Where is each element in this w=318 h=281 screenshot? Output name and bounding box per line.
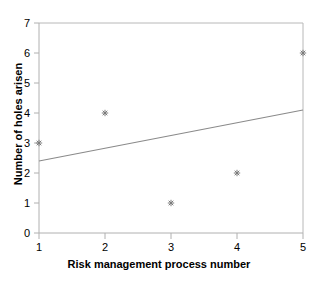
data-point[interactable]	[102, 110, 108, 116]
scatter-plot-canvas	[0, 0, 318, 281]
x-tick-label-2: 2	[98, 242, 112, 253]
data-point[interactable]	[234, 170, 240, 176]
data-point[interactable]	[168, 200, 174, 206]
x-tick-label-3: 3	[164, 242, 178, 253]
data-point[interactable]	[300, 50, 306, 56]
y-tick-label-0: 0	[16, 228, 30, 239]
x-tick-label-5: 5	[296, 242, 310, 253]
x-tick-label-1: 1	[32, 242, 46, 253]
data-point-group	[36, 50, 306, 206]
data-point[interactable]	[36, 140, 42, 146]
y-axis-title: Number of holes arisen	[12, 44, 24, 204]
x-axis-title: Risk management process number	[0, 258, 318, 270]
trend-line	[39, 110, 303, 161]
chart-figure: 0 1 2 3 4 5 6 7 1 2 3 4 5 Risk managemen…	[0, 0, 318, 281]
x-tick-label-4: 4	[230, 242, 244, 253]
x-axis-ticks	[39, 233, 303, 239]
y-axis-ticks	[34, 23, 39, 233]
y-tick-label-7: 7	[16, 18, 30, 29]
